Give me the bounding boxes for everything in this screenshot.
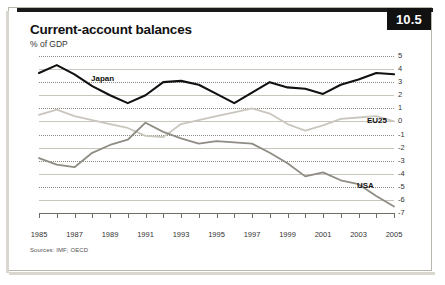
series-lines	[9, 8, 433, 272]
chart-card: 10.5 Current-account balances % of GDP 5…	[8, 7, 432, 271]
series-line-japan	[39, 65, 394, 103]
series-label-japan: Japan	[91, 74, 114, 83]
series-label-usa: USA	[357, 181, 374, 190]
source-note: Sources: IMF; OECD	[30, 247, 88, 253]
series-label-eu25: EU25	[367, 116, 387, 125]
series-line-eu25	[39, 108, 394, 137]
series-line-usa	[39, 123, 394, 207]
